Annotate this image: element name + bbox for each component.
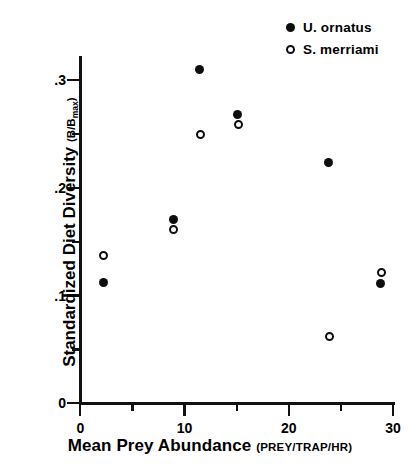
data-point <box>99 278 108 287</box>
x-tick-30 <box>392 403 394 416</box>
y-axis-title-units: (B/Bmax) <box>65 97 77 142</box>
x-minor-tick-5 <box>131 403 133 411</box>
x-minor-tick-15 <box>236 403 238 411</box>
data-point <box>169 225 178 234</box>
data-point <box>376 279 385 288</box>
x-tick-10 <box>183 403 185 416</box>
data-point <box>324 158 333 167</box>
x-minor-tick-25 <box>340 403 342 411</box>
data-point <box>99 251 108 260</box>
legend-label-u-ornatus: U. ornatus <box>303 20 372 35</box>
x-tick-20 <box>288 403 290 416</box>
data-point <box>169 215 178 224</box>
y-axis-title-main: Standardized Diet Diversity <box>60 147 79 367</box>
filled-circle-icon <box>283 23 297 32</box>
legend: U. ornatus S. merriami <box>283 18 379 62</box>
legend-item-s-merriami: S. merriami <box>283 40 379 59</box>
plot-area: 01020300.1.2.3 Mean Prey Abundance (PREY… <box>0 0 420 474</box>
open-circle-icon <box>283 45 297 54</box>
x-tick-label-30: 30 <box>373 421 413 435</box>
data-point <box>234 120 243 129</box>
x-tick-label-20: 20 <box>269 421 309 435</box>
legend-item-u-ornatus: U. ornatus <box>283 18 379 37</box>
x-axis-title-main: Mean Prey Abundance <box>68 436 252 455</box>
scatter-plot-figure: 01020300.1.2.3 Mean Prey Abundance (PREY… <box>0 0 420 474</box>
x-tick-label-10: 10 <box>165 421 205 435</box>
x-axis-title-units: (PREY/TRAP/HR) <box>256 441 352 453</box>
y-axis-title: Standardized Diet Diversity (B/Bmax) <box>60 22 80 442</box>
data-point <box>195 65 204 74</box>
data-point <box>196 130 205 139</box>
data-point <box>233 110 242 119</box>
legend-label-s-merriami: S. merriami <box>303 42 379 57</box>
data-point <box>325 332 334 341</box>
data-point <box>377 268 386 277</box>
